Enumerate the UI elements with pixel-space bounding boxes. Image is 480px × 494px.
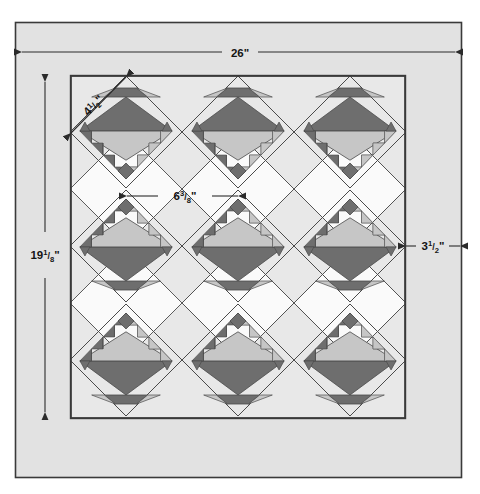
quilt-field (70, 76, 406, 418)
dim-19-suffix: " (54, 249, 59, 261)
quilt-diagram-canvas: Quilt Assembly Diagram (0, 0, 480, 494)
quilt-diagram-svg: 26" 191/8" 41/2" (0, 0, 480, 494)
blocks-layer (70, 76, 406, 416)
dimension-label-overall-width: 26" (231, 47, 249, 59)
dim-6three8-suffix: " (191, 190, 196, 202)
dim-19-whole: 19 (30, 249, 43, 261)
dim-3half-suffix: " (439, 240, 444, 252)
